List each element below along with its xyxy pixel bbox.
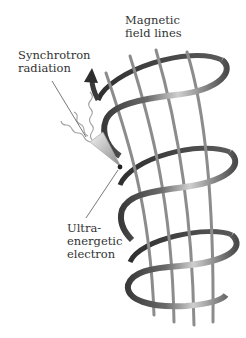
synchrotron-diagram: Magnetic field lines Synchrotron radiati… [0,0,246,338]
electron-leader [86,170,118,218]
label-magnetic-line2: field lines [125,27,182,40]
label-electron-line3: electron [67,248,122,261]
wave-1 [89,92,94,140]
label-synchrotron-line2: radiation [18,62,91,75]
radiation-waves [61,92,93,142]
label-ultra-energetic-electron: Ultra- energetic electron [67,222,122,261]
label-synchrotron-radiation: Synchrotron radiation [18,49,91,75]
wave-2 [61,121,90,142]
electron-dot [118,165,123,170]
label-magnetic-field-lines: Magnetic field lines [125,14,182,40]
helical-ribbon [104,60,236,306]
synchrotron-leader [52,81,86,137]
